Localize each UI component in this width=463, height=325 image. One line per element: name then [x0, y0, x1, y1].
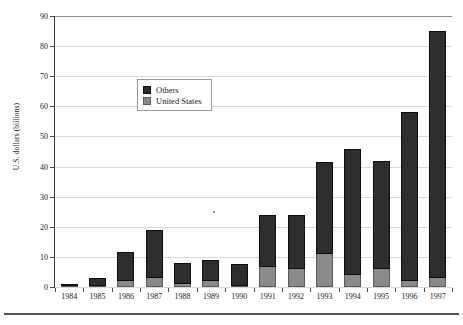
bar-series-container [55, 16, 452, 287]
y-tick-mark [50, 167, 54, 168]
y-tick-mark [50, 287, 54, 288]
bar-group [231, 264, 248, 287]
bar-segment-united-states [316, 254, 333, 287]
bar-group [61, 284, 78, 287]
bar-segment-others [146, 230, 163, 278]
chart-legend: Others United States [137, 79, 212, 111]
y-tick-label: 30 [40, 192, 48, 201]
bar-segment-united-states [231, 286, 248, 287]
x-tick-label: 1986 [118, 292, 134, 301]
bar-segment-united-states [288, 269, 305, 287]
bar-segment-united-states [344, 275, 361, 287]
y-tick-mark [50, 76, 54, 77]
bar-segment-others [429, 31, 446, 278]
bar-segment-united-states [259, 267, 276, 287]
y-tick-label: 80 [40, 42, 48, 51]
bar-segment-united-states [61, 286, 78, 287]
bar-segment-united-states [373, 269, 390, 287]
x-tick-label: 1989 [203, 292, 219, 301]
y-tick-label: 20 [40, 222, 48, 231]
x-tick-mark [452, 288, 453, 292]
bar-segment-others [174, 263, 191, 284]
bar-segment-united-states [429, 278, 446, 287]
bar-group [202, 260, 219, 287]
bar-segment-united-states [174, 284, 191, 287]
x-tick-label: 1995 [373, 292, 389, 301]
y-tick-mark [50, 257, 54, 258]
bar-segment-united-states [401, 281, 418, 287]
bar-segment-united-states [89, 286, 106, 288]
y-tick-mark [50, 46, 54, 47]
x-tick-label: 1993 [316, 292, 332, 301]
united-states-swatch-icon [143, 97, 151, 105]
legend-item-united-states: United States [143, 95, 202, 106]
x-tick-label: 1990 [231, 292, 247, 301]
x-tick-label: 1997 [430, 292, 446, 301]
bar-group [89, 278, 106, 287]
y-tick-label: 90 [40, 12, 48, 21]
bar-segment-others [89, 278, 106, 286]
bar-group [146, 230, 163, 287]
x-tick-label: 1988 [175, 292, 191, 301]
bar-group [174, 263, 191, 287]
y-tick-mark [50, 227, 54, 228]
bar-group [429, 31, 446, 287]
y-tick-label: 10 [40, 252, 48, 261]
x-tick-label: 1996 [401, 292, 417, 301]
bar-segment-others [202, 260, 219, 281]
x-tick-label: 1984 [61, 292, 77, 301]
y-tick-label: 0 [44, 283, 48, 292]
y-tick-label: 60 [40, 102, 48, 111]
x-tick-label: 1991 [260, 292, 276, 301]
bar-segment-others [288, 215, 305, 269]
bar-segment-others [344, 149, 361, 275]
bar-segment-united-states [117, 281, 134, 287]
bar-group [401, 112, 418, 287]
bar-segment-others [231, 264, 248, 286]
bar-segment-others [259, 215, 276, 268]
bar-segment-united-states [146, 278, 163, 287]
legend-label-others: Others [156, 85, 179, 95]
y-tick-label: 40 [40, 162, 48, 171]
bar-segment-others [401, 112, 418, 281]
bar-segment-united-states [202, 281, 219, 287]
bar-group [344, 149, 361, 288]
bar-chart-figure: U.S. dollars (billions) 0102030405060708… [0, 0, 463, 325]
y-tick-mark [50, 197, 54, 198]
others-swatch-icon [143, 86, 151, 94]
bar-group [316, 162, 333, 287]
bar-segment-others [373, 161, 390, 269]
y-tick-mark [50, 136, 54, 137]
bar-segment-others [117, 252, 134, 281]
x-tick-label: 1994 [345, 292, 361, 301]
legend-label-united-states: United States [156, 96, 202, 106]
bar-group [259, 215, 276, 287]
y-tick-label: 50 [40, 132, 48, 141]
x-tick-label: 1985 [90, 292, 106, 301]
y-tick-label: 70 [40, 72, 48, 81]
x-axis-labels: 1984198519861987198819891990199119921993… [55, 292, 452, 306]
bar-group [288, 215, 305, 287]
stray-speck-artifact [213, 211, 215, 213]
y-tick-mark [50, 16, 54, 17]
plot-area: 0102030405060708090 [54, 16, 452, 288]
y-axis-title: U.S. dollars (billions) [12, 67, 21, 207]
x-tick-label: 1992 [288, 292, 304, 301]
bar-group [117, 252, 134, 287]
bottom-horizontal-rule [4, 313, 459, 315]
y-tick-mark [50, 106, 54, 107]
legend-item-others: Others [143, 84, 202, 95]
x-tick-label: 1987 [146, 292, 162, 301]
bar-segment-others [316, 162, 333, 254]
bar-group [373, 161, 390, 287]
